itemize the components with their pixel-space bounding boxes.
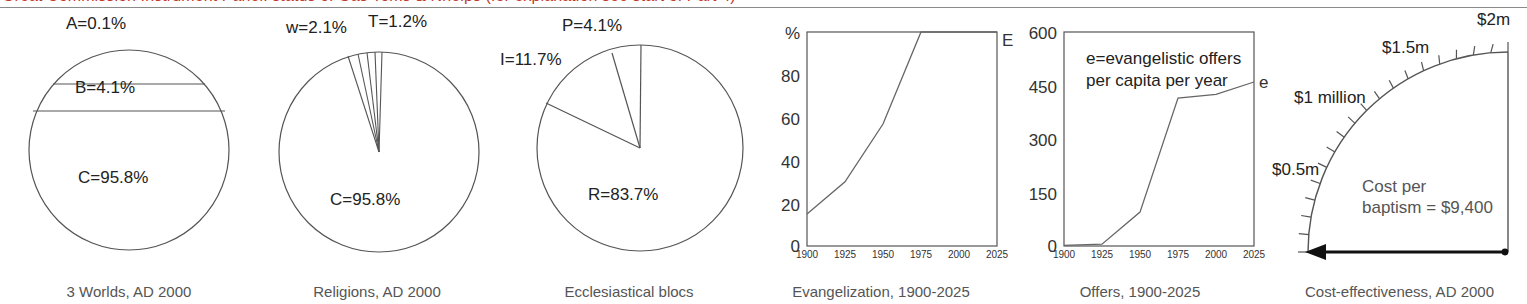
slice-label-c: C=95.8%	[78, 168, 148, 188]
figure-title-strip: Great Commission Instrument Panel: statu…	[0, 0, 1527, 6]
y-tick-150: 150	[1029, 185, 1057, 204]
y-tick-450: 450	[1029, 78, 1057, 97]
header-rule	[0, 7, 1527, 8]
slice-label-r: R=83.7%	[588, 185, 658, 205]
gauge-tick-label-1-5m: $1.5m	[1382, 38, 1429, 58]
page-title: Great Commission Instrument Panel: statu…	[2, 0, 736, 5]
instrument-panel-figure: Great Commission Instrument Panel: statu…	[0, 0, 1527, 304]
three-worlds-pie: A=0.1% B=4.1% C=95.8%	[0, 10, 258, 260]
gauge-pivot	[1502, 249, 1509, 256]
series-label-e: e	[1259, 73, 1268, 92]
cost-effectiveness-gauge: Cost per baptism = $9,400 $0.5m $1 milli…	[1272, 10, 1527, 260]
offers-annotation-line1: e=evangelistic offers	[1086, 49, 1241, 68]
gauge-readout-line1: Cost per	[1362, 177, 1427, 196]
gauge-tick-label-0-5m: $0.5m	[1272, 160, 1319, 180]
panel-caption: Cost-effectiveness, AD 2000	[1272, 283, 1527, 300]
panel-caption: Ecclesiastical blocs	[500, 283, 758, 300]
x-tick-1975: 1975	[910, 249, 933, 260]
religions-pie: w=2.1% T=1.2% C=95.8%	[248, 10, 506, 260]
series-line-E	[807, 32, 997, 214]
x-tick-1975: 1975	[1167, 249, 1190, 260]
wedge-edge-5	[379, 52, 382, 152]
slice-label-p: P=4.1%	[562, 16, 622, 36]
x-tick-1900: 1900	[1053, 249, 1076, 260]
panel-evangelization: % 80 60 40 20 0 1900 1925 1950 1975 2000…	[752, 10, 1010, 304]
gauge-needle	[1305, 244, 1508, 260]
wedge-edge-top	[640, 45, 641, 148]
gauge-ticks	[1298, 42, 1508, 252]
wedge-edge-i	[546, 103, 640, 148]
slice-label-a: A=0.1%	[66, 14, 126, 34]
gauge-tick-label-1m: $1 million	[1294, 88, 1366, 108]
gauge-arc	[1308, 52, 1508, 252]
panel-three-worlds: A=0.1% B=4.1% C=95.8% 3 Worlds, AD 2000	[0, 10, 258, 304]
y-tick-80: 80	[781, 67, 800, 86]
y-tick-20: 20	[781, 196, 800, 215]
x-tick-1950: 1950	[872, 249, 895, 260]
x-tick-2000: 2000	[948, 249, 971, 260]
y-tick-300: 300	[1029, 131, 1057, 150]
x-tick-1925: 1925	[834, 249, 857, 260]
y-tick-60: 60	[781, 110, 800, 129]
gauge-tick-label-2m: $2m	[1477, 10, 1510, 30]
panel-caption: 3 Worlds, AD 2000	[0, 283, 258, 300]
panel-cost-effectiveness: Cost per baptism = $9,400 $0.5m $1 milli…	[1272, 10, 1527, 304]
x-tick-1950: 1950	[1129, 249, 1152, 260]
offers-line-chart: 600 450 300 150 0 1900 1925 1950 1975 20…	[1004, 10, 1276, 260]
y-tick-100: %	[785, 24, 800, 43]
series-line-e	[1064, 82, 1254, 245]
panel-caption: Religions, AD 2000	[248, 283, 506, 300]
offers-annotation-line2: per capita per year	[1086, 71, 1228, 90]
panel-offers: 600 450 300 150 0 1900 1925 1950 1975 20…	[1004, 10, 1276, 304]
panel-caption: Offers, 1900-2025	[1004, 283, 1276, 300]
panel-caption: Evangelization, 1900-2025	[752, 283, 1010, 300]
slice-label-b: B=4.1%	[75, 78, 135, 98]
slice-label-t: T=1.2%	[368, 12, 427, 32]
gauge-readout-line2: baptism = $9,400	[1362, 198, 1493, 217]
x-tick-2000: 2000	[1205, 249, 1228, 260]
wedge-edge-1	[348, 56, 379, 152]
x-tick-1925: 1925	[1091, 249, 1114, 260]
slice-label-c: C=95.8%	[330, 190, 400, 210]
y-tick-600: 600	[1029, 24, 1057, 43]
panel-religions: w=2.1% T=1.2% C=95.8% Religions, AD 2000	[248, 10, 506, 304]
wedge-edge-p	[612, 53, 640, 148]
slice-label-i: I=11.7%	[500, 50, 562, 70]
ecclesiastical-blocs-pie: P=4.1% I=11.7% R=83.7%	[500, 10, 758, 260]
x-tick-2025: 2025	[1243, 249, 1266, 260]
plot-frame	[807, 32, 997, 246]
x-tick-1900: 1900	[796, 249, 819, 260]
y-tick-40: 40	[781, 153, 800, 172]
panel-ecclesiastical-blocs: P=4.1% I=11.7% R=83.7% Ecclesiastical bl…	[500, 10, 758, 304]
evangelization-line-chart: % 80 60 40 20 0 1900 1925 1950 1975 2000…	[752, 10, 1010, 260]
slice-label-w: w=2.1%	[286, 18, 347, 38]
